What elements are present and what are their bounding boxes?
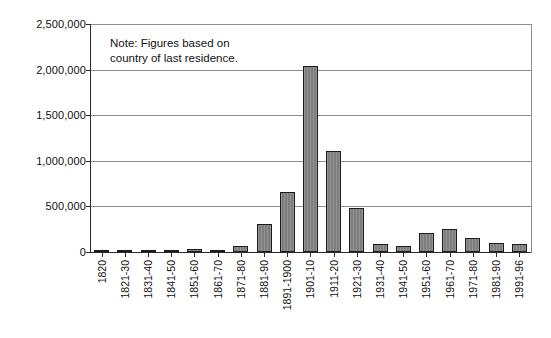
- x-tick-mark: [229, 252, 252, 257]
- bar: [303, 66, 318, 253]
- x-label-slot: 1821-30: [113, 258, 136, 336]
- bar-slot: [183, 24, 206, 252]
- x-tick-mark: [299, 252, 322, 257]
- x-label-slot: 1961-70: [438, 258, 461, 336]
- bar-slot: [136, 24, 159, 252]
- x-label-slot: 1881-90: [252, 258, 275, 336]
- x-tick-mark: [136, 252, 159, 257]
- x-tick-mark: [183, 252, 206, 257]
- bar-slot: [438, 24, 461, 252]
- x-tick-mark: [113, 252, 136, 257]
- bar: [326, 151, 341, 252]
- x-label-slot: 1931-40: [368, 258, 391, 336]
- x-tick-label: 1821-30: [119, 260, 130, 299]
- bar: [280, 192, 295, 252]
- x-label-slot: 1851-60: [183, 258, 206, 336]
- x-tick-label: 1941-50: [398, 260, 409, 299]
- x-axis-ticks: [90, 252, 531, 257]
- x-label-slot: 1901-10: [299, 258, 322, 336]
- x-tick-label: 1951-60: [421, 260, 432, 299]
- x-label-slot: 1911-20: [322, 258, 345, 336]
- bar-slot: [299, 24, 322, 252]
- bar-series: [90, 24, 531, 252]
- bar: [465, 238, 480, 252]
- bar-slot: [392, 24, 415, 252]
- bar-slot: [276, 24, 299, 252]
- x-label-slot: 1820: [90, 258, 113, 336]
- x-tick-label: 1921-30: [351, 260, 362, 299]
- x-tick-mark: [368, 252, 391, 257]
- y-tick-label-500000: 500,000: [6, 201, 86, 212]
- y-axis-ticks: 2,500,000 2,000,000 1,500,000 1,000,000 …: [0, 24, 86, 252]
- bar: [419, 233, 434, 252]
- bar-slot: [368, 24, 391, 252]
- y-tick-label-2500000: 2,500,000: [6, 19, 86, 30]
- y-tick-label-2000000: 2,000,000: [6, 65, 86, 76]
- bar-slot: [345, 24, 368, 252]
- x-axis-labels: 18201821-301831-401841-501851-601861-701…: [90, 258, 531, 336]
- x-label-slot: 1831-40: [136, 258, 159, 336]
- bar-slot: [229, 24, 252, 252]
- bar-slot: [113, 24, 136, 252]
- x-tick-mark: [415, 252, 438, 257]
- chart-figure: 2,500,000 2,000,000 1,500,000 1,000,000 …: [0, 0, 551, 338]
- bar: [489, 243, 504, 252]
- bar: [442, 229, 457, 252]
- x-tick-label: 1971-80: [467, 260, 478, 299]
- x-label-slot: 1861-70: [206, 258, 229, 336]
- bar-slot: [90, 24, 113, 252]
- x-tick-label: 1831-40: [143, 260, 154, 299]
- x-label-slot: 1921-30: [345, 258, 368, 336]
- x-tick-label: 1881-90: [259, 260, 270, 299]
- bar: [349, 208, 364, 252]
- bar: [512, 244, 527, 252]
- y-tick-label-1000000: 1,000,000: [6, 156, 86, 167]
- plot-right-edge: [531, 24, 532, 253]
- bar-slot: [508, 24, 531, 252]
- x-tick-mark: [438, 252, 461, 257]
- bar-slot: [484, 24, 507, 252]
- bar: [257, 224, 272, 252]
- x-tick-label: 1991-96: [514, 260, 525, 299]
- x-tick-label: 1961-70: [444, 260, 455, 299]
- x-tick-label: 1851-60: [189, 260, 200, 299]
- x-tick-label: 1981-90: [491, 260, 502, 299]
- x-tick-label: 1901-10: [305, 260, 316, 299]
- x-tick-label: 1931-40: [375, 260, 386, 299]
- bar-slot: [415, 24, 438, 252]
- x-tick-label: 1911-20: [328, 260, 339, 298]
- x-label-slot: 1841-50: [160, 258, 183, 336]
- x-tick-mark: [345, 252, 368, 257]
- x-tick-mark: [252, 252, 275, 257]
- x-label-slot: 1971-80: [461, 258, 484, 336]
- bar: [373, 244, 388, 252]
- x-label-slot: 1991-96: [508, 258, 531, 336]
- x-tick-mark: [90, 252, 113, 257]
- x-tick-label: 1841-50: [166, 260, 177, 299]
- x-tick-mark: [206, 252, 229, 257]
- x-label-slot: 1891-1900: [276, 258, 299, 336]
- x-tick-label: 1820: [96, 260, 107, 283]
- bar-slot: [252, 24, 275, 252]
- x-tick-mark: [484, 252, 507, 257]
- x-tick-mark: [276, 252, 299, 257]
- y-tick-label-1500000: 1,500,000: [6, 110, 86, 121]
- x-tick-mark: [508, 252, 531, 257]
- y-tick-label-0: 0: [6, 247, 86, 258]
- bar-slot: [322, 24, 345, 252]
- x-tick-mark: [461, 252, 484, 257]
- x-tick-mark: [392, 252, 415, 257]
- bar-slot: [206, 24, 229, 252]
- x-label-slot: 1951-60: [415, 258, 438, 336]
- x-tick-mark: [160, 252, 183, 257]
- x-tick-label: 1891-1900: [282, 260, 293, 310]
- x-tick-label: 1871-80: [235, 260, 246, 299]
- x-tick-mark: [322, 252, 345, 257]
- x-label-slot: 1981-90: [484, 258, 507, 336]
- bar-slot: [461, 24, 484, 252]
- x-label-slot: 1871-80: [229, 258, 252, 336]
- bar-slot: [160, 24, 183, 252]
- x-tick-label: 1861-70: [212, 260, 223, 299]
- x-label-slot: 1941-50: [392, 258, 415, 336]
